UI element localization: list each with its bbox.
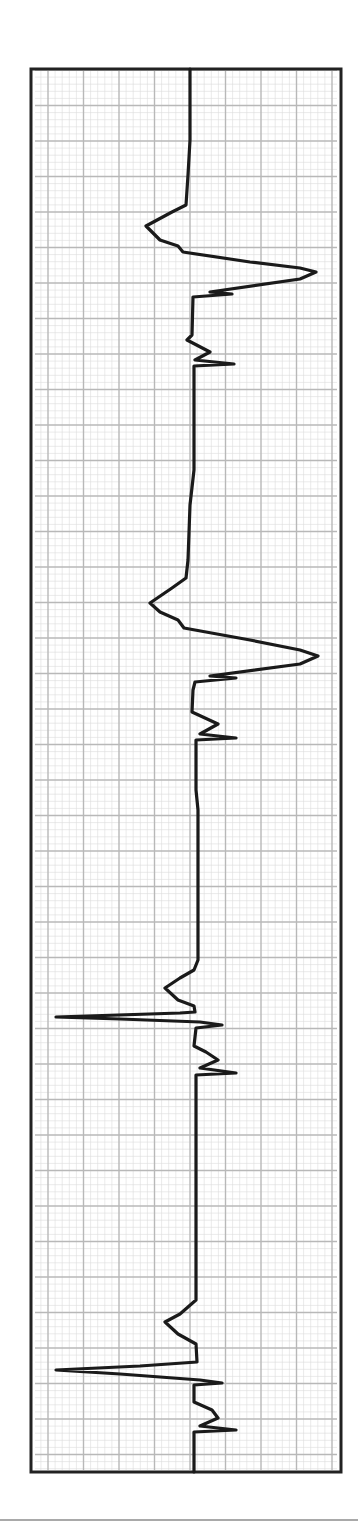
ecg-trace (56, 69, 318, 1472)
ecg-strip (0, 0, 358, 1529)
